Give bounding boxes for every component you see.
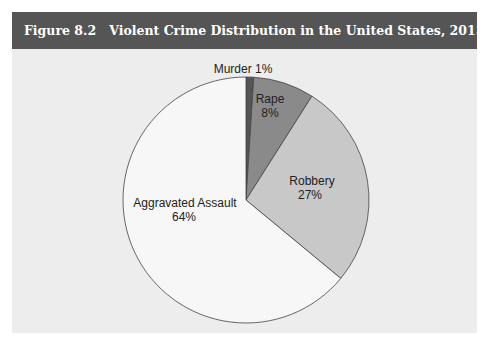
pie-chart: Murder 1% Rape 8% Robbery 27% Aggravated… (0, 0, 485, 347)
label-assault-pct: 64% (172, 210, 196, 224)
label-robbery-pct: 27% (298, 188, 322, 202)
label-rape-pct: 8% (261, 106, 279, 120)
label-robbery-name: Robbery (289, 174, 334, 188)
label-rape-name: Rape (256, 92, 285, 106)
label-assault-name: Aggravated Assault (133, 196, 237, 210)
label-murder: Murder 1% (214, 62, 273, 76)
